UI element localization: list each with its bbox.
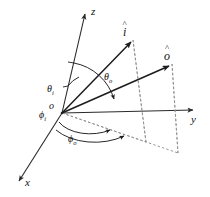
x-axis-label: x [25, 177, 30, 188]
axis-group [19, 14, 193, 181]
y-axis-label: y [191, 114, 196, 125]
incident-vector-label: ^ i [123, 26, 126, 38]
outgoing-vector [62, 66, 169, 113]
theta-i-label: θi [47, 84, 54, 94]
incident-plane-edge [133, 40, 146, 142]
incident-hat-icon: ^ [123, 20, 127, 29]
spherical-coordinate-diagram: z y x o ^ i ^ o θi θo ϕi ϕo [0, 0, 210, 197]
phi-o-arc [56, 130, 124, 142]
y-axis [62, 110, 193, 113]
phi-i-label: ϕi [39, 110, 46, 120]
outgoing-hat-icon: ^ [165, 44, 169, 53]
theta-o-tick [68, 62, 74, 63]
theta-i-subscript: i [52, 89, 54, 96]
x-axis [19, 113, 62, 181]
z-axis-label: z [91, 6, 95, 17]
phi-o-label: ϕo [68, 134, 76, 144]
phi-i-subscript: i [44, 115, 46, 122]
diagram-canvas [0, 0, 210, 197]
origin-point [61, 112, 64, 115]
z-axis [62, 14, 85, 113]
phi-i-arc [59, 122, 110, 134]
theta-i-tick [63, 86, 68, 87]
phi-o-subscript: o [73, 139, 76, 146]
theta-o-subscript: o [109, 77, 112, 84]
outgoing-vector-label: ^ o [164, 50, 170, 62]
angle-arc-group [56, 62, 124, 142]
theta-o-label: θo [104, 72, 112, 82]
projection-group [62, 40, 178, 153]
incident-vector [62, 42, 131, 113]
origin-label: o [49, 101, 54, 111]
